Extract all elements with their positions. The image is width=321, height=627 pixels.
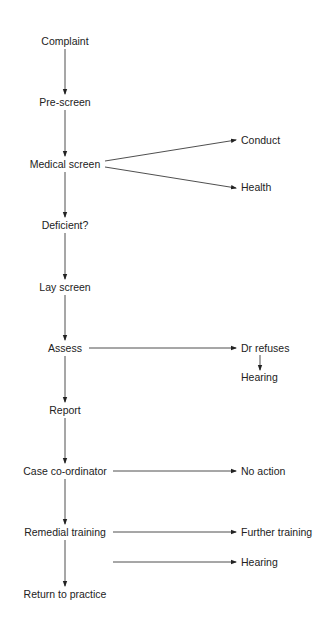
node-return-to-practice: Return to practice <box>24 588 107 600</box>
node-health: Health <box>241 181 271 193</box>
node-report: Report <box>49 404 81 416</box>
node-case-coordinator: Case co-ordinator <box>23 465 106 477</box>
arrow-medical-conduct <box>105 140 236 161</box>
node-medical-screen: Medical screen <box>30 158 101 170</box>
arrow-medical-health <box>105 167 236 188</box>
node-prescreen: Pre-screen <box>39 96 90 108</box>
node-hearing-remedial: Hearing <box>241 556 278 568</box>
node-no-action: No action <box>241 465 285 477</box>
node-further-training: Further training <box>241 526 312 538</box>
node-dr-refuses: Dr refuses <box>241 342 289 354</box>
node-conduct: Conduct <box>241 134 280 146</box>
node-complaint: Complaint <box>41 35 88 47</box>
node-lay-screen: Lay screen <box>39 281 90 293</box>
node-remedial-training: Remedial training <box>24 526 106 538</box>
node-deficient: Deficient? <box>42 219 89 231</box>
node-hearing-assess: Hearing <box>241 371 278 383</box>
node-assess: Assess <box>48 342 82 354</box>
